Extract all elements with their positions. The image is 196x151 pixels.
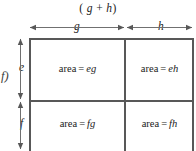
width-label-g: g [71, 21, 83, 33]
cell-label-bottom-right: area=fh [126, 118, 193, 129]
area-grid [29, 38, 194, 151]
grid-vertical-divider [124, 38, 126, 151]
cell-prefix: area [60, 118, 77, 129]
cell-expression: fg [87, 118, 95, 129]
figure-part-label: f) [1, 70, 9, 83]
cell-label-top-right: area=eh [126, 63, 193, 74]
cell-prefix: area [142, 118, 159, 129]
total-width-expression: ( g + h) [0, 3, 196, 15]
cell-equals: = [77, 118, 87, 129]
cell-expression: eh [168, 63, 178, 74]
grid-horizontal-divider [29, 100, 194, 102]
area-model-figure: ( g + h) f) g h e f area=eg area=eh area… [0, 0, 196, 151]
cell-equals: = [159, 118, 169, 129]
cell-expression: fh [169, 118, 177, 129]
height-label-f: f [17, 118, 26, 130]
height-label-e: e [16, 62, 27, 74]
cell-label-top-left: area=eg [30, 63, 125, 74]
cell-prefix: area [141, 63, 158, 74]
grid-left-border [29, 38, 31, 151]
cell-expression: eg [86, 63, 96, 74]
cell-equals: = [76, 63, 86, 74]
grid-top-border [29, 38, 194, 40]
width-label-h: h [155, 21, 167, 33]
paren-close: ) [113, 2, 117, 14]
grid-right-border [192, 38, 194, 151]
cell-label-bottom-left: area=fg [30, 118, 125, 129]
cell-equals: = [158, 63, 168, 74]
cell-prefix: area [59, 63, 76, 74]
